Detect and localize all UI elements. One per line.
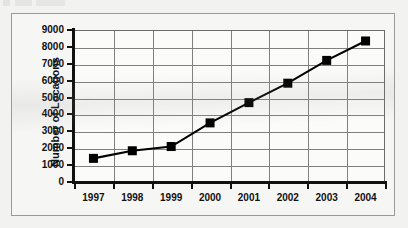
x-tick-label: 1998: [110, 193, 154, 203]
y-tick-label: 5000: [20, 93, 64, 103]
scan-artifact: [3, 0, 65, 6]
y-tick-label: 2000: [20, 143, 64, 153]
y-tick-mark: [67, 181, 72, 183]
data-point-marker: 2001: 4700: [244, 98, 253, 107]
x-tick-label: 2002: [266, 193, 310, 203]
x-tick-mark: [385, 184, 387, 189]
y-tick-mark: [67, 147, 72, 149]
data-series-layer: 1997: 14001998: 18501999: 21002000: 3500…: [12, 14, 396, 217]
y-tick-mark: [67, 80, 72, 82]
data-point-marker: 2004: 8350: [361, 36, 370, 45]
data-point-marker: 1999: 2100: [167, 142, 176, 151]
x-tick-label: 1999: [149, 193, 193, 203]
chart-plot-region: Number of Locations 1997: 14001998: 1850…: [12, 14, 396, 217]
y-tick-label: 0: [20, 177, 64, 187]
y-tick-mark: [67, 29, 72, 31]
data-point-marker: 1997: 1400: [89, 154, 98, 163]
data-point-marker: 2000: 3500: [206, 118, 215, 127]
y-tick-mark: [67, 113, 72, 115]
x-tick-mark: [268, 184, 270, 189]
y-tick-label: 6000: [20, 76, 64, 86]
x-tick-mark: [74, 184, 76, 189]
x-tick-mark: [152, 184, 154, 189]
x-tick-label: 1997: [71, 193, 115, 203]
data-point-marker: 2003: 7200: [322, 56, 331, 65]
x-tick-label: 2003: [305, 193, 349, 203]
x-tick-mark: [346, 184, 348, 189]
y-tick-label: 1000: [20, 160, 64, 170]
y-tick-label: 4000: [20, 109, 64, 119]
x-tick-mark: [191, 184, 193, 189]
y-tick-mark: [67, 46, 72, 48]
y-tick-label: 9000: [20, 25, 64, 35]
y-tick-mark: [67, 164, 72, 166]
x-tick-label: 2001: [227, 193, 271, 203]
chart-figure-frame: Number of Locations 1997: 14001998: 1850…: [11, 13, 395, 216]
x-tick-label: 2004: [344, 193, 388, 203]
x-tick-mark: [113, 184, 115, 189]
y-tick-label: 3000: [20, 126, 64, 136]
y-tick-mark: [67, 130, 72, 132]
data-point-marker: 2002: 5850: [283, 79, 292, 88]
data-point-marker: 1998: 1850: [128, 146, 137, 155]
x-tick-label: 2000: [188, 193, 232, 203]
y-tick-mark: [67, 97, 72, 99]
x-tick-mark: [230, 184, 232, 189]
y-tick-label: 7000: [20, 59, 64, 69]
y-tick-label: 8000: [20, 42, 64, 52]
y-tick-mark: [67, 63, 72, 65]
x-tick-mark: [307, 184, 309, 189]
